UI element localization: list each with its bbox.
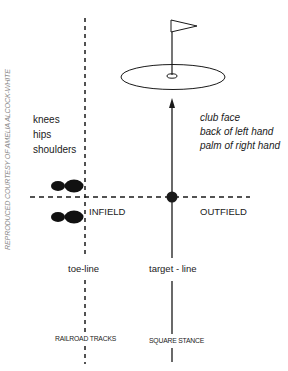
right-footprint-icon	[51, 211, 84, 224]
stance-diagram	[0, 0, 288, 371]
railroad-tracks-caption: RAILROAD TRACKS	[55, 336, 116, 343]
hand-item-back-left-hand: back of left hand	[200, 125, 280, 139]
hand-alignment-list: club face back of left hand palm of righ…	[200, 111, 280, 153]
photo-credit: REPRODUCED COURTESY OF AMELIA ALCOCK-WHI…	[3, 69, 12, 250]
hand-item-club-face: club face	[200, 111, 280, 125]
body-item-shoulders: shoulders	[33, 142, 76, 157]
flag-icon	[171, 20, 197, 32]
ball-icon	[167, 192, 178, 203]
green-ellipse	[121, 65, 225, 90]
body-item-hips: hips	[33, 127, 76, 142]
target-line-label: target - line	[149, 264, 197, 274]
left-footprint-icon	[51, 180, 84, 193]
outfield-label: OUTFIELD	[200, 207, 247, 217]
hand-item-palm-right-hand: palm of right hand	[200, 139, 280, 153]
toe-line-label: toe-line	[68, 264, 99, 274]
arrowhead-icon	[169, 98, 175, 108]
body-item-knees: knees	[33, 112, 76, 127]
square-stance-caption: SQUARE STANCE	[149, 338, 204, 345]
body-alignment-list: knees hips shoulders	[33, 112, 76, 157]
infield-label: INFIELD	[89, 207, 125, 217]
